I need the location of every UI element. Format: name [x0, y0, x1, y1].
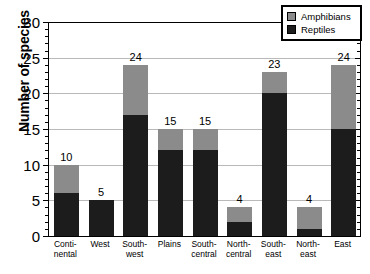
y-tick-minor-right — [357, 79, 361, 80]
bar — [89, 200, 114, 236]
y-tick-minor — [45, 86, 49, 87]
y-tick-major — [43, 129, 49, 130]
bar-segment-amphibians — [331, 65, 356, 129]
y-tick-minor — [45, 179, 49, 180]
bar — [158, 129, 183, 236]
y-tick-minor — [45, 143, 49, 144]
gridline — [49, 58, 361, 59]
y-tick-minor — [45, 79, 49, 80]
y-tick-major — [43, 165, 49, 166]
y-axis-tick-label: 10 — [23, 156, 40, 173]
bar — [262, 72, 287, 236]
bar-segment-amphibians — [54, 165, 79, 194]
y-tick-major — [43, 22, 49, 23]
y-tick-minor-right — [357, 136, 361, 137]
bar — [227, 207, 252, 236]
y-tick-minor — [45, 29, 49, 30]
y-tick-minor-right — [357, 150, 361, 151]
bar-value-label: 4 — [306, 193, 312, 205]
y-tick-minor — [45, 229, 49, 230]
y-tick-minor — [45, 43, 49, 44]
legend-swatch — [287, 25, 296, 34]
x-axis-tick-label-line: central — [187, 250, 222, 260]
bar-value-label: 15 — [199, 115, 211, 127]
y-axis-tick-label: 25 — [23, 49, 40, 66]
y-tick-minor — [45, 186, 49, 187]
y-tick-minor-right — [357, 86, 361, 87]
y-tick-minor-right — [357, 215, 361, 216]
y-tick-minor-right — [357, 158, 361, 159]
x-axis-tick-label: South-west — [117, 240, 152, 259]
bar — [54, 165, 79, 236]
x-axis-tick-label: West — [83, 240, 118, 250]
plot-area: 051015202530 105241515423424 — [48, 22, 361, 237]
y-tick-minor — [45, 65, 49, 66]
bar-segment-reptiles — [123, 115, 148, 236]
y-tick-minor — [45, 51, 49, 52]
x-axis-tick-label-line: Plains — [152, 240, 187, 250]
bar-value-label: 15 — [164, 115, 176, 127]
y-tick-minor-right — [357, 143, 361, 144]
y-tick-minor-right — [357, 72, 361, 73]
bar-value-label: 23 — [268, 58, 280, 70]
x-axis-tick-label-line: East — [325, 240, 360, 250]
bar-segment-amphibians — [123, 65, 148, 115]
legend-label: Amphibians — [301, 11, 351, 22]
bar — [193, 129, 218, 236]
y-tick-major-right — [355, 58, 361, 59]
y-tick-minor — [45, 136, 49, 137]
bar-segment-reptiles — [227, 222, 252, 236]
y-tick-major — [43, 236, 49, 237]
y-tick-minor-right — [357, 100, 361, 101]
x-axis-tick-label: North-east — [291, 240, 326, 259]
x-axis-tick-label-line: east — [291, 250, 326, 260]
x-axis-tick-label-line: west — [117, 250, 152, 260]
bar-segment-reptiles — [54, 193, 79, 236]
bar-segment-reptiles — [262, 93, 287, 236]
y-tick-minor — [45, 150, 49, 151]
bar-chart: Number of species 051015202530 105241515… — [0, 0, 370, 274]
y-tick-minor — [45, 158, 49, 159]
y-axis-tick-label: 5 — [32, 192, 40, 209]
y-tick-minor-right — [357, 65, 361, 66]
y-tick-minor-right — [357, 193, 361, 194]
x-axis-tick-label-line: West — [83, 240, 118, 250]
y-tick-minor-right — [357, 172, 361, 173]
bar-segment-reptiles — [89, 200, 114, 236]
gridline — [49, 93, 361, 94]
bar-segment-reptiles — [331, 129, 356, 236]
y-axis-tick-label: 30 — [23, 14, 40, 31]
y-tick-minor-right — [357, 229, 361, 230]
y-tick-minor — [45, 72, 49, 73]
bar — [123, 65, 148, 236]
y-tick-minor-right — [357, 122, 361, 123]
y-tick-minor — [45, 193, 49, 194]
bar-value-label: 24 — [130, 51, 142, 63]
y-tick-minor-right — [357, 222, 361, 223]
x-axis-tick-label: Conti-nental — [48, 240, 83, 259]
y-tick-minor-right — [357, 207, 361, 208]
y-tick-minor — [45, 207, 49, 208]
bar-segment-reptiles — [297, 229, 322, 236]
legend-label: Reptiles — [301, 24, 335, 35]
x-axis-tick-label-line: east — [256, 250, 291, 260]
y-tick-minor-right — [357, 179, 361, 180]
y-tick-minor-right — [357, 108, 361, 109]
x-axis-tick-label: South-east — [256, 240, 291, 259]
x-axis-tick-label-line: nental — [48, 250, 83, 260]
x-axis-tick-label: Plains — [152, 240, 187, 250]
bar-segment-amphibians — [227, 207, 252, 221]
bar-value-label: 5 — [98, 186, 104, 198]
y-tick-minor-right — [357, 43, 361, 44]
x-axis-tick-label: North-central — [221, 240, 256, 259]
legend-item: Reptiles — [287, 23, 356, 36]
y-tick-minor — [45, 115, 49, 116]
y-tick-minor — [45, 215, 49, 216]
bar-segment-amphibians — [297, 207, 322, 228]
y-tick-major — [43, 93, 49, 94]
y-tick-minor — [45, 100, 49, 101]
bar — [297, 207, 322, 236]
y-axis-tick-label: 20 — [23, 85, 40, 102]
bar-segment-amphibians — [193, 129, 218, 150]
y-tick-minor-right — [357, 115, 361, 116]
